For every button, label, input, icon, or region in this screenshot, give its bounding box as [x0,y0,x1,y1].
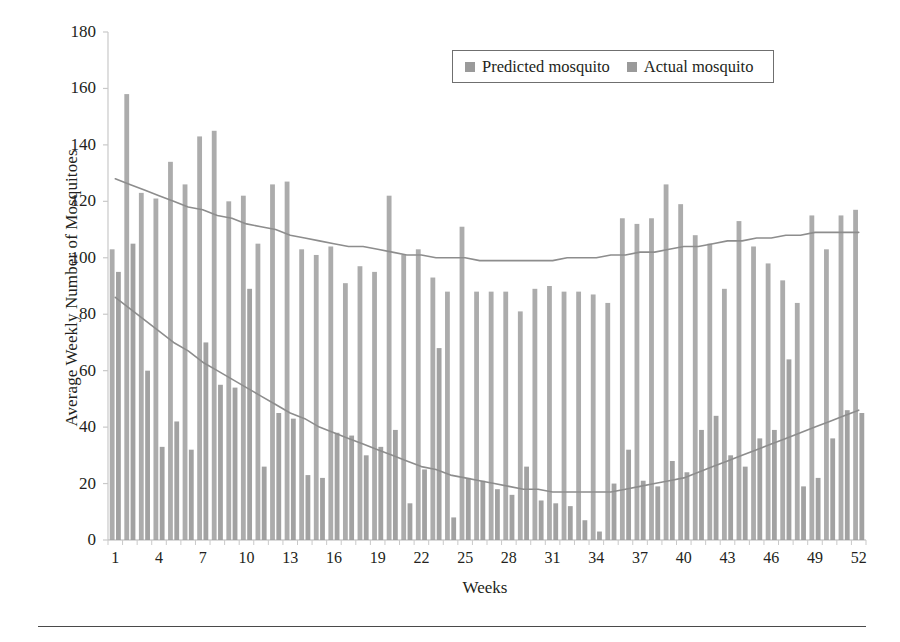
bar [795,303,800,540]
bar [678,204,683,540]
bar [299,249,304,540]
bar [780,280,785,540]
bar [845,410,850,540]
bar [335,433,340,540]
bar [787,359,792,540]
bar [766,263,771,540]
bar [830,438,835,540]
bar [641,481,646,540]
bar [466,478,471,540]
bar [605,303,610,540]
bar [349,436,354,540]
bar [757,438,762,540]
bar [532,289,537,540]
bar [693,235,698,540]
bar [145,371,150,540]
bar [685,472,690,540]
chart-figure: Average Weekly Number of Mosquitoes Week… [0,0,900,642]
bar [110,249,115,540]
bar [816,478,821,540]
bar [737,221,742,540]
bar [320,478,325,540]
bar [131,244,136,540]
bar [358,266,363,540]
bar [437,348,442,540]
bar [620,218,625,540]
bar [168,162,173,540]
bar [276,413,281,540]
bar [539,500,544,540]
bar [582,520,587,540]
bar [124,94,129,540]
bar [256,244,261,540]
bar [772,430,777,540]
bar [233,388,238,540]
bar [707,244,712,540]
legend-item-actual: Actual mosquito [627,57,762,77]
legend-swatch-actual [627,62,637,72]
bar [387,196,392,540]
legend-item-predicted: Predicted mosquito [465,57,618,77]
bar [859,413,864,540]
bar [597,532,602,540]
bar [416,249,421,540]
bar [189,450,194,540]
bar [751,246,756,540]
bar [649,218,654,540]
bar [451,517,456,540]
bar [445,292,450,540]
bar [241,196,246,540]
bar [547,286,552,540]
bar [218,385,223,540]
bar [801,486,806,540]
bar [116,272,121,540]
bar [401,255,406,540]
bar [655,486,660,540]
bar [576,292,581,540]
bar [743,467,748,540]
bar [635,224,640,540]
bar [430,278,435,540]
bar [262,467,267,540]
bar [393,430,398,540]
bar [460,227,465,540]
legend-label-actual: Actual mosquito [644,57,754,77]
bar [824,249,829,540]
bar [408,503,413,540]
bar [518,311,523,540]
bar [839,215,844,540]
bar [670,461,675,540]
bar [480,481,485,540]
bar [474,292,479,540]
bar [664,184,669,540]
bar [524,467,529,540]
bar [714,416,719,540]
bar [372,272,377,540]
bar [226,201,231,540]
bar [174,421,179,540]
bar [495,489,500,540]
bar [591,294,596,540]
plot-area [0,0,900,642]
bar [291,419,296,540]
chart-legend: Predicted mosquito Actual mosquito [452,50,774,83]
bar [562,292,567,540]
bar [378,447,383,540]
footer-divider [38,626,866,627]
bar [728,455,733,540]
bar [183,184,188,540]
bar [568,506,573,540]
legend-label-predicted: Predicted mosquito [482,57,610,77]
bar [328,246,333,540]
bar [343,283,348,540]
bar [212,131,217,540]
bar [270,184,275,540]
bar [139,193,144,540]
bar [306,475,311,540]
bar [853,210,858,540]
bar [160,447,165,540]
bar [809,215,814,540]
bar [722,289,727,540]
bar [314,255,319,540]
bar [364,455,369,540]
